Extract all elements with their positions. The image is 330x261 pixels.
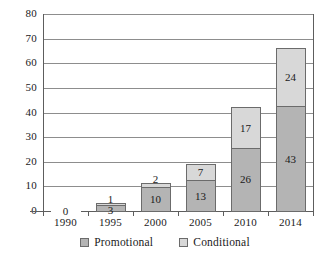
y-tick-label-10: 10 bbox=[6, 180, 37, 191]
bar-value-label-conditional-2000: 2 bbox=[153, 174, 159, 185]
bar-value-label-promotional-2000: 10 bbox=[150, 194, 161, 205]
bar-segment-promotional-2000[interactable]: 10 bbox=[141, 187, 171, 212]
x-category-label-2005: 2005 bbox=[178, 216, 224, 228]
x-category-label-1995: 1995 bbox=[88, 216, 134, 228]
legend-label-promotional: Promotional bbox=[94, 236, 153, 248]
y-tick-label-80: 80 bbox=[6, 8, 37, 19]
bar-group-2014[interactable]: 2443 bbox=[276, 48, 306, 211]
bar-group-2000[interactable]: 210 bbox=[141, 183, 171, 211]
legend-swatch-promotional-icon bbox=[80, 238, 89, 247]
stacked-bar-chart: 01020304050607080 01321071317262443 1990… bbox=[0, 0, 330, 261]
y-tick-label-70: 70 bbox=[6, 33, 37, 44]
bar-value-label-conditional-2014: 24 bbox=[285, 72, 296, 83]
bar-value-label-promotional-2010: 26 bbox=[240, 174, 251, 185]
chart-legend: PromotionalConditional bbox=[0, 236, 330, 248]
bar-group-1995[interactable]: 13 bbox=[96, 203, 126, 211]
right-axis-line bbox=[313, 14, 314, 212]
bar-segment-promotional-2010[interactable]: 26 bbox=[231, 148, 261, 212]
bar-segment-promotional-1995[interactable]: 3 bbox=[96, 205, 126, 212]
y-tick-label-50: 50 bbox=[6, 82, 37, 93]
bar-segment-conditional-2010[interactable]: 17 bbox=[231, 107, 261, 149]
x-category-label-2014: 2014 bbox=[268, 216, 314, 228]
x-category-label-2000: 2000 bbox=[133, 216, 179, 228]
y-tick-label-20: 20 bbox=[6, 156, 37, 167]
bar-segment-promotional-2014[interactable]: 43 bbox=[276, 106, 306, 212]
bar-group-2010[interactable]: 1726 bbox=[231, 107, 261, 211]
bar-value-label-promotional-1995: 3 bbox=[108, 205, 114, 216]
bar-group-2005[interactable]: 713 bbox=[186, 164, 216, 211]
bar-segment-conditional-2014[interactable]: 24 bbox=[276, 48, 306, 107]
bar-segment-conditional-2005[interactable]: 7 bbox=[186, 164, 216, 181]
legend-label-conditional: Conditional bbox=[193, 236, 250, 248]
y-tick-label-60: 60 bbox=[6, 57, 37, 68]
legend-item-promotional[interactable]: Promotional bbox=[80, 236, 153, 248]
plot-area: 01321071317262443 bbox=[43, 14, 313, 211]
x-category-label-2010: 2010 bbox=[223, 216, 269, 228]
y-tick-label-40: 40 bbox=[6, 107, 37, 118]
bar-value-label-conditional-2005: 7 bbox=[198, 167, 204, 178]
legend-item-conditional[interactable]: Conditional bbox=[179, 236, 250, 248]
bar-segment-promotional-2005[interactable]: 13 bbox=[186, 180, 216, 212]
legend-swatch-conditional-icon bbox=[179, 238, 188, 247]
y-tick-label-30: 30 bbox=[6, 131, 37, 142]
bar-value-label-conditional-2010: 17 bbox=[240, 123, 251, 134]
bar-value-label-promotional-2005: 13 bbox=[195, 191, 206, 202]
bar-value-label-promotional-2014: 43 bbox=[285, 154, 296, 165]
x-category-label-1990: 1990 bbox=[43, 216, 89, 228]
